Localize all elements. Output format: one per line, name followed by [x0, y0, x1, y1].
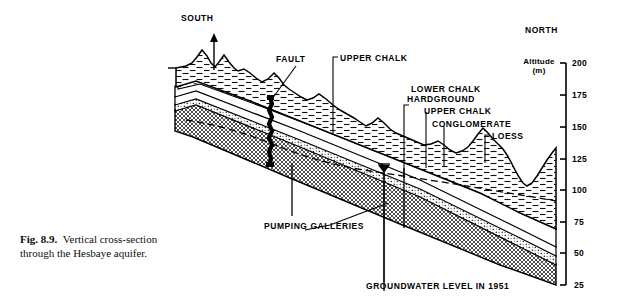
- axis-tick-150: 150: [572, 122, 587, 132]
- axis-tick-200: 200: [572, 58, 587, 68]
- axis-tick-25: 25: [574, 280, 584, 290]
- north-label: NORTH: [525, 25, 558, 35]
- altitude-axis-title-line1: Altitude: [518, 57, 560, 66]
- axis-tick-75: 75: [574, 217, 584, 227]
- upper-chalk-right-label: UPPER CHALK: [424, 106, 491, 116]
- axis-tick-175: 175: [572, 90, 587, 100]
- altitude-axis-title-line2: (m): [518, 66, 560, 75]
- figure-caption: Fig. 8.9. Vertical cross-section through…: [20, 233, 160, 260]
- upper-chalk-left-label: UPPER CHALK: [340, 53, 407, 63]
- lower-chalk-label: LOWER CHALK: [411, 84, 481, 94]
- conglomerate-label: CONGLOMERATE: [432, 119, 511, 129]
- pumping-galleries-label: PUMPING GALLERIES: [264, 221, 364, 231]
- altitude-axis: [560, 63, 566, 285]
- axis-tick-100: 100: [572, 185, 587, 195]
- axis-tick-125: 125: [572, 154, 587, 164]
- altitude-axis-title: Altitude (m): [518, 57, 560, 75]
- loess-label: LOESS: [492, 131, 524, 141]
- groundwater-level-label: GROUNDWATER LEVEL IN 1951: [366, 281, 509, 291]
- fault-label: FAULT: [276, 54, 306, 64]
- figure-caption-label: Fig. 8.9.: [20, 233, 57, 245]
- figure-root: SOUTH NORTH FAULT UPPER CHALK LOWER CHAL…: [0, 0, 621, 304]
- south-label: SOUTH: [181, 13, 214, 23]
- hardground-label: HARDGROUND: [407, 94, 475, 104]
- axis-tick-50: 50: [574, 248, 584, 258]
